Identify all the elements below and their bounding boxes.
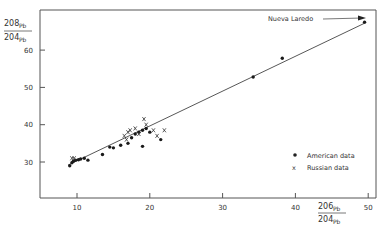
- american-data-point: [251, 75, 254, 78]
- russian-data-point: [152, 128, 155, 132]
- american-data-point: [83, 157, 86, 160]
- y-tick-label: 40: [24, 121, 33, 129]
- y-label-num-element: Pb: [19, 22, 27, 29]
- russian-data-point: [155, 134, 158, 138]
- american-data-point: [79, 157, 82, 160]
- x-tick-label: 50: [364, 204, 373, 212]
- american-data-point: [141, 129, 144, 132]
- russian-data-point: [134, 126, 137, 130]
- american-data-point: [86, 158, 89, 161]
- x-tick-label: 20: [145, 204, 154, 212]
- regression-line-path: [68, 23, 365, 165]
- russian-data-point: [163, 128, 166, 132]
- american-data-point: [68, 164, 71, 167]
- y-axis-label: 208 Pb 204 Pb: [4, 19, 32, 43]
- x-tick-label: 30: [218, 204, 227, 212]
- legend-x-marker-icon: x: [292, 164, 296, 172]
- american-data-point: [130, 136, 133, 139]
- american-data-point: [112, 146, 115, 149]
- russian-data-point: [123, 134, 126, 138]
- american-data-point: [134, 132, 137, 135]
- american-data-point: [144, 127, 147, 130]
- x-axis-label: 206 Pb 204 Pb: [318, 202, 346, 225]
- russian-data-point: [142, 117, 145, 121]
- american-data-point: [159, 138, 162, 141]
- axis-ticks: 102030405030405060: [24, 47, 373, 212]
- annotation-leader-line: [323, 18, 362, 19]
- russian-data-point: [125, 138, 128, 142]
- american-data-point: [119, 144, 122, 147]
- american-data-point: [363, 20, 366, 23]
- x-tick-label: 40: [291, 204, 300, 212]
- x-label-den-mass: 204: [318, 215, 333, 224]
- american-data-point: [281, 57, 284, 60]
- y-label-num-mass: 208: [4, 19, 19, 28]
- american-data-point: [148, 130, 151, 133]
- russian-data-point: [145, 123, 148, 127]
- legend-russian-label: Russian data: [307, 164, 349, 172]
- legend-dot-marker-icon: [293, 153, 297, 157]
- arrowhead-icon: [358, 16, 366, 21]
- scatter-chart: 102030405030405060 208 Pb 204 Pb 206 Pb …: [0, 0, 387, 230]
- annotation-label: Nueva Laredo: [268, 15, 313, 23]
- x-label-num-mass: 206: [318, 202, 333, 211]
- y-tick-label: 60: [24, 47, 33, 55]
- american-data-point: [108, 145, 111, 148]
- y-label-den-element: Pb: [19, 36, 27, 43]
- legend-american-label: American data: [307, 152, 355, 160]
- legend: American data x Russian data: [292, 152, 355, 173]
- regression-line: [68, 23, 365, 165]
- american-data-point: [126, 142, 129, 145]
- y-label-den-mass: 204: [4, 33, 19, 42]
- x-label-num-element: Pb: [333, 205, 341, 212]
- nueva-laredo-annotation: Nueva Laredo: [268, 15, 366, 23]
- x-label-den-element: Pb: [333, 218, 341, 225]
- american-data-point: [101, 153, 104, 156]
- x-tick-label: 10: [73, 204, 82, 212]
- american-data-point: [141, 145, 144, 148]
- y-tick-label: 30: [24, 159, 33, 167]
- y-tick-label: 50: [24, 84, 33, 92]
